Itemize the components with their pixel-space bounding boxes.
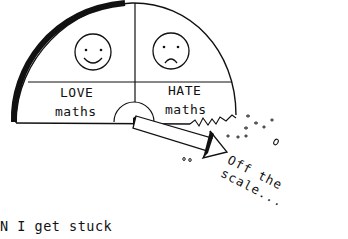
bottom-caption: N I get stuck — [0, 218, 112, 234]
happy-face-icon — [75, 34, 111, 70]
love-maths-label: maths — [55, 104, 97, 119]
sad-face-icon — [153, 33, 189, 69]
love-label: LOVE — [60, 85, 93, 100]
hate-label: HATE — [168, 83, 201, 98]
pointer-arrow-icon — [133, 116, 227, 158]
hate-maths-label: maths — [165, 102, 207, 117]
